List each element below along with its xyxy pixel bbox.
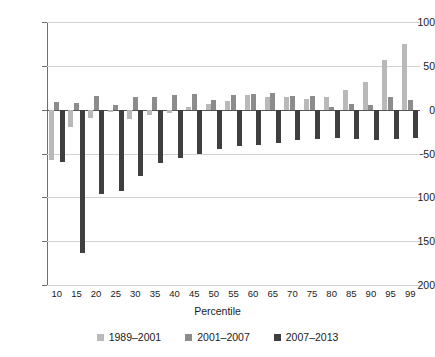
bar (54, 102, 59, 110)
bar (335, 110, 340, 138)
bar-group (127, 22, 143, 285)
bar-group (108, 22, 124, 285)
bar-group (343, 22, 359, 285)
bar (99, 110, 104, 194)
bar-group (88, 22, 104, 285)
bar (304, 99, 309, 110)
bar (413, 110, 418, 138)
plot-area (47, 22, 420, 285)
bar (284, 97, 289, 110)
bar (167, 110, 172, 114)
bar-group (402, 22, 418, 285)
bar-group (186, 22, 202, 285)
bar (374, 110, 379, 141)
legend-label: 2007–2013 (286, 332, 339, 343)
bar (315, 110, 320, 140)
bar (49, 110, 54, 160)
legend-item[interactable]: 2001–2007 (185, 332, 250, 343)
bar (310, 96, 315, 110)
bar (402, 44, 407, 110)
legend-item[interactable]: 1989–2001 (97, 332, 162, 343)
bar (138, 110, 143, 177)
bar-group (382, 22, 398, 285)
bar-chart: 100500−50−100−150−200 101520253035404550… (0, 0, 435, 357)
bar (211, 100, 216, 110)
bar (231, 95, 236, 110)
legend-swatch-icon (97, 334, 104, 341)
legend-item[interactable]: 2007–2013 (274, 332, 339, 343)
x-tick-label: 99 (398, 288, 422, 299)
bar (186, 107, 191, 110)
bar-group (265, 22, 281, 285)
bar-group (363, 22, 379, 285)
bar (251, 94, 256, 110)
bar (237, 110, 242, 147)
bar (192, 94, 197, 110)
bar-group (225, 22, 241, 285)
bar (74, 103, 79, 110)
bar (256, 110, 261, 145)
bar-group (304, 22, 320, 285)
bar (368, 105, 373, 109)
bar (88, 110, 93, 119)
bar (290, 96, 295, 110)
bar-group (147, 22, 163, 285)
bar (245, 95, 250, 110)
bar (354, 110, 359, 140)
bar (329, 107, 334, 110)
bar (295, 110, 300, 141)
bar (343, 90, 348, 110)
bar (158, 110, 163, 163)
bar (108, 110, 113, 113)
bar (363, 82, 368, 109)
bar (349, 104, 354, 110)
gridline (47, 285, 420, 286)
bar (147, 110, 152, 115)
bar-group (284, 22, 300, 285)
bar (197, 110, 202, 155)
bar (60, 110, 65, 163)
bar-group (68, 22, 84, 285)
legend-swatch-icon (185, 334, 192, 341)
bar (217, 110, 222, 149)
bar-group (206, 22, 222, 285)
bar (113, 105, 118, 109)
bar (94, 96, 99, 110)
bar-group (49, 22, 65, 285)
bar-group (245, 22, 261, 285)
chart-legend: 1989–20012001–20072007–2013 (0, 332, 435, 343)
bar-group (324, 22, 340, 285)
bar (80, 110, 85, 253)
bar (265, 97, 270, 109)
bar (276, 110, 281, 143)
bar (206, 104, 211, 109)
legend-swatch-icon (274, 334, 281, 341)
bar (133, 97, 138, 109)
bar (225, 101, 230, 110)
bar (382, 60, 387, 110)
bar (127, 110, 132, 120)
bar (408, 100, 413, 110)
bar (394, 110, 399, 140)
bar (119, 110, 124, 192)
bar (388, 97, 393, 110)
bar (172, 95, 177, 110)
legend-label: 2001–2007 (197, 332, 250, 343)
bar (152, 97, 157, 109)
bar (324, 97, 329, 109)
bar (178, 110, 183, 158)
bar (270, 93, 275, 110)
x-axis-title: Percentile (0, 305, 435, 317)
bar (68, 110, 73, 128)
bar-group (167, 22, 183, 285)
legend-label: 1989–2001 (109, 332, 162, 343)
